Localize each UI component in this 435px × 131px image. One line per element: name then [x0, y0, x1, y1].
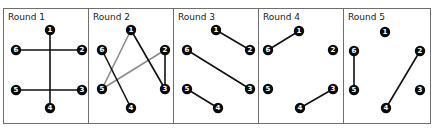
node-5: 5 [11, 85, 21, 95]
node-label: 4 [298, 104, 303, 112]
node-label: 2 [163, 46, 168, 54]
node-label: 1 [297, 27, 302, 35]
node-4: 4 [381, 103, 391, 113]
node-label: 6 [352, 47, 357, 55]
node-5: 5 [97, 84, 107, 94]
node-3: 3 [160, 84, 170, 94]
node-6: 6 [349, 46, 359, 56]
edge-1-6 [268, 31, 299, 50]
round-panel-2: Round 2123456 [89, 9, 174, 124]
node-4: 4 [295, 103, 305, 113]
node-4: 4 [126, 103, 136, 113]
node-label: 3 [80, 86, 85, 94]
node-5: 5 [263, 84, 273, 94]
node-6: 6 [11, 45, 21, 55]
node-1: 1 [126, 25, 136, 35]
node-6: 6 [182, 45, 192, 55]
node-label: 6 [185, 46, 190, 54]
round-panel-5: Round 5123456 [344, 9, 431, 124]
node-2: 2 [160, 45, 170, 55]
rounds-svg: Round 1123456Round 2123456Round 3123456R… [0, 0, 435, 131]
node-label: 2 [331, 46, 336, 54]
node-5: 5 [182, 84, 192, 94]
node-label: 4 [384, 104, 389, 112]
node-label: 5 [352, 86, 357, 94]
round-robin-diagram: Round 1123456Round 2123456Round 3123456R… [0, 0, 435, 131]
node-label: 2 [248, 46, 253, 54]
round-title: Round 2 [93, 12, 130, 22]
node-5: 5 [349, 85, 359, 95]
node-label: 1 [129, 26, 134, 34]
round-title: Round 3 [178, 12, 215, 22]
edge-5-4 [187, 89, 218, 108]
node-label: 4 [48, 104, 53, 112]
node-2: 2 [415, 46, 425, 56]
node-label: 6 [14, 46, 19, 54]
node-label: 6 [266, 46, 271, 54]
node-2: 2 [328, 45, 338, 55]
node-6: 6 [97, 45, 107, 55]
node-label: 2 [80, 46, 85, 54]
node-label: 1 [214, 26, 219, 34]
node-label: 3 [331, 85, 336, 93]
node-1: 1 [380, 27, 390, 37]
edge-1-3 [131, 30, 165, 89]
round-panel-4: Round 4123456 [259, 9, 344, 124]
node-label: 6 [100, 46, 105, 54]
node-6: 6 [263, 45, 273, 55]
node-3: 3 [77, 85, 87, 95]
node-3: 3 [415, 85, 425, 95]
round-title: Round 4 [263, 12, 300, 22]
node-label: 3 [163, 85, 168, 93]
node-label: 3 [418, 86, 423, 94]
edge-6-3 [187, 50, 250, 89]
edge-3-4 [300, 89, 333, 108]
node-1: 1 [45, 25, 55, 35]
node-3: 3 [245, 84, 255, 94]
node-label: 5 [185, 85, 190, 93]
edge-2-4 [386, 51, 420, 108]
node-label: 5 [14, 86, 19, 94]
node-4: 4 [45, 103, 55, 113]
node-1: 1 [294, 26, 304, 36]
node-label: 5 [266, 85, 271, 93]
round-panel-1: Round 1123456 [4, 9, 89, 124]
round-title: Round 1 [8, 12, 45, 22]
node-label: 4 [216, 104, 221, 112]
node-3: 3 [328, 84, 338, 94]
node-label: 2 [418, 47, 423, 55]
node-4: 4 [213, 103, 223, 113]
node-2: 2 [245, 45, 255, 55]
node-2: 2 [77, 45, 87, 55]
node-label: 1 [383, 28, 388, 36]
round-title: Round 5 [348, 12, 385, 22]
node-label: 3 [248, 85, 253, 93]
node-label: 4 [129, 104, 134, 112]
round-panel-3: Round 3123456 [174, 9, 259, 124]
node-label: 5 [100, 85, 105, 93]
node-label: 1 [48, 26, 53, 34]
edge-1-2 [216, 30, 250, 50]
node-1: 1 [211, 25, 221, 35]
